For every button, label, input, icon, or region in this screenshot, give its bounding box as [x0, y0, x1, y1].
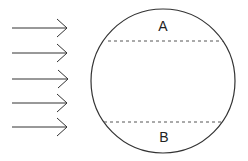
arrow-3	[12, 70, 68, 88]
label-a: A	[158, 18, 168, 34]
arrow-2	[12, 44, 67, 62]
arrows-group	[12, 19, 68, 136]
diagram-canvas: A B	[0, 0, 248, 161]
arrow-1	[12, 19, 67, 37]
arrow-4	[12, 94, 67, 112]
arrow-5	[12, 118, 67, 136]
label-b: B	[159, 129, 168, 145]
